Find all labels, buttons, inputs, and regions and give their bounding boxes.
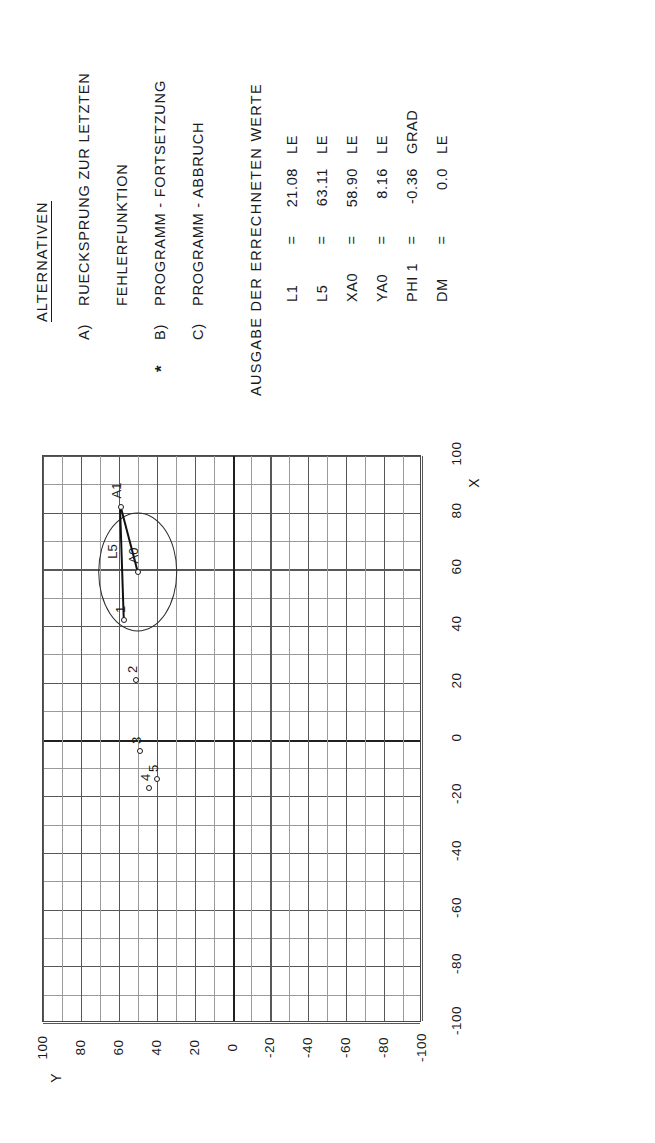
value-number: 0.0 — [434, 168, 450, 230]
plot-point-marker — [137, 748, 143, 754]
plot-point-marker — [133, 677, 139, 683]
alternative-text-b: PROGRAMM - FORTSETZUNG — [152, 80, 168, 306]
value-unit: LE — [344, 104, 360, 168]
y-axis-tick-label: 40 — [148, 1025, 163, 1071]
alternative-row-c[interactable]: C)PROGRAMM - ABBRUCH — [190, 122, 206, 340]
plot-point-marker — [121, 617, 127, 623]
x-axis-tick-label: -20 — [449, 771, 464, 817]
value-unit: LE — [374, 104, 390, 168]
grid-line — [214, 456, 215, 1021]
y-axis-tick-label: 60 — [110, 1025, 125, 1071]
grid-line — [346, 456, 347, 1021]
alternative-text-a-line2: FEHLERFUNKTION — [114, 163, 130, 306]
x-axis-tick-label: -40 — [449, 827, 464, 873]
plot-point-marker — [146, 785, 152, 791]
value-row: L1=21.08LE — [284, 104, 300, 302]
alternative-text-c: PROGRAMM - ABBRUCH — [190, 122, 206, 306]
y-axis-tick-label: -20 — [262, 1025, 277, 1071]
plot-point-label: 2 — [125, 666, 140, 673]
plot-point-marker — [154, 776, 160, 782]
grid-line — [365, 456, 366, 1021]
alternative-key-a: A) — [76, 306, 92, 340]
x-axis-tick-label: 20 — [449, 657, 464, 703]
segment-label: L5 — [104, 544, 119, 558]
grid-line — [81, 456, 82, 1021]
plot-point-label: 5 — [146, 765, 161, 772]
value-label: PHI 1 — [404, 250, 420, 302]
value-unit: GRAD — [404, 104, 420, 168]
grid-line — [176, 456, 177, 1021]
alternative-text-a: RUECKSPRUNG ZUR LETZTEN — [76, 73, 92, 307]
value-number: 58.90 — [344, 168, 360, 230]
grid-line — [308, 456, 309, 1021]
x-axis-tick-label: 80 — [449, 487, 464, 533]
plot-point-label: 1 — [114, 606, 129, 613]
axis-line — [233, 456, 236, 1021]
value-number: -0.36 — [404, 168, 420, 230]
grid-line — [195, 456, 196, 1021]
value-equals-sign: = — [374, 230, 390, 250]
value-equals-sign: = — [314, 230, 330, 250]
alternative-key-b: B) — [152, 306, 168, 340]
value-number: 8.16 — [374, 168, 390, 230]
x-axis-tick-label: 100 — [449, 431, 464, 477]
grid-line — [62, 456, 63, 1021]
value-equals-sign: = — [404, 230, 420, 250]
grid-line — [403, 456, 404, 1021]
rotated-text-canvas: ALTERNATIVEN * A)RUECKSPRUNG ZUR LETZTEN… — [0, 0, 330, 420]
plot-point-label: A1 — [109, 483, 124, 499]
grid-line — [100, 456, 101, 1021]
y-axis-tick-label: -80 — [376, 1025, 391, 1071]
x-axis-tick-label: -100 — [449, 998, 464, 1044]
value-unit: LE — [284, 104, 300, 168]
grid-line — [43, 456, 44, 1021]
value-row: L5=63.11LE — [314, 104, 330, 302]
value-row: XA0=58.90LE — [344, 104, 360, 302]
y-axis-tick-label: 0 — [224, 1025, 239, 1071]
plot-point-label: A0 — [126, 548, 141, 564]
value-unit: LE — [314, 104, 330, 168]
plot-point-marker — [118, 504, 124, 510]
y-axis-tick-label: -40 — [300, 1025, 315, 1071]
alternative-key-c: C) — [190, 306, 206, 340]
value-row: PHI 1=-0.36GRAD — [404, 104, 420, 302]
y-axis-tick-label: 80 — [72, 1025, 87, 1071]
printout-text-panel: ALTERNATIVEN * A)RUECKSPRUNG ZUR LETZTEN… — [0, 0, 330, 420]
x-axis-tick-label: 40 — [449, 601, 464, 647]
value-label: L5 — [314, 250, 330, 302]
y-axis-tick-label: -60 — [338, 1025, 353, 1071]
alternative-row-a[interactable]: A)RUECKSPRUNG ZUR LETZTEN — [76, 73, 92, 341]
value-number: 21.08 — [284, 168, 300, 230]
value-label: YA0 — [374, 250, 390, 302]
grid-line — [384, 456, 385, 1021]
coordinate-plot-panel: L512345A1A0 -100-80-60-40-20020406080100… — [0, 420, 655, 1143]
value-number: 63.11 — [314, 168, 330, 230]
y-axis-tick-label: -100 — [414, 1025, 429, 1071]
x-axis-title: X — [466, 479, 482, 488]
value-equals-sign: = — [344, 230, 360, 250]
alternatives-title: ALTERNATIVEN — [34, 201, 52, 322]
plot-point-label: 3 — [129, 737, 144, 744]
plot-point-marker — [135, 569, 141, 575]
grid-line — [289, 456, 290, 1021]
x-axis-tick-label: -80 — [449, 941, 464, 987]
x-axis-tick-label: -60 — [449, 884, 464, 930]
value-unit: LE — [434, 104, 450, 168]
grid-line — [327, 456, 328, 1021]
value-equals-sign: = — [284, 230, 300, 250]
x-axis-tick-label: 0 — [449, 714, 464, 760]
grid-line — [422, 456, 423, 1021]
y-axis-tick-label: 20 — [186, 1025, 201, 1071]
grid-line — [251, 456, 252, 1021]
alternative-row-b[interactable]: B)PROGRAMM - FORTSETZUNG — [152, 80, 168, 340]
value-label: DM — [434, 250, 450, 302]
plot-point-label: 4 — [138, 774, 153, 781]
plot-frame: L512345A1A0 — [42, 455, 421, 1022]
value-label: L1 — [284, 250, 300, 302]
selected-marker: * — [152, 365, 172, 372]
value-equals-sign: = — [434, 230, 450, 250]
y-axis-title: Y — [48, 1073, 64, 1082]
grid-line — [270, 456, 271, 1021]
value-label: XA0 — [344, 250, 360, 302]
output-title: AUSGABE DER ERRECHNETEN WERTE — [248, 83, 264, 396]
